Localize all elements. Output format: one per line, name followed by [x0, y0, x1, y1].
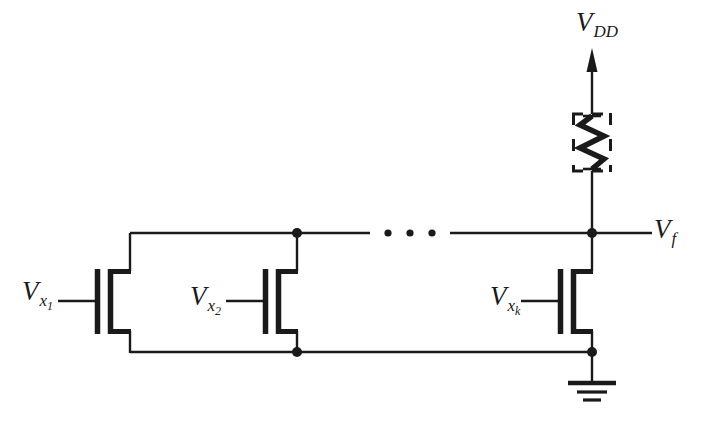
ellipsis-dot-3 — [428, 229, 435, 236]
vx2-label-index: 2 — [215, 304, 221, 318]
vxk-label-base: V — [490, 281, 507, 311]
vdd-supply-line — [587, 48, 598, 114]
vx1-label-index: 1 — [47, 299, 53, 313]
vx1-input-label: Vx1 — [22, 278, 52, 305]
vdd-label-sub: DD — [594, 22, 619, 41]
load-resistor-zigzag-icon — [580, 116, 604, 169]
vdd-label: VDD — [576, 9, 617, 36]
nmos-transistor-2 — [226, 233, 298, 353]
nmos-transistor-k — [521, 233, 593, 353]
junction-top-t2 — [292, 228, 302, 238]
circuit-diagram-canvas: VDD Vf Vx1 Vx2 Vxk — [0, 0, 715, 421]
ground-symbol — [568, 352, 616, 400]
schematic-svg — [0, 0, 715, 421]
vf-label-base: V — [654, 214, 671, 244]
vxk-input-label: Vxk — [490, 283, 519, 310]
vf-output-label: Vf — [654, 216, 675, 243]
ellipsis-dot-2 — [406, 229, 413, 236]
vf-label-sub: f — [672, 229, 677, 248]
vxk-label-index: k — [515, 304, 520, 318]
vx1-label-sub: x1 — [40, 291, 54, 310]
ellipsis-dot-1 — [384, 229, 391, 236]
vx2-label-sub: x2 — [208, 296, 222, 315]
vdd-label-base: V — [576, 7, 593, 37]
continuation-dots — [384, 229, 435, 236]
vxk-label-sub: xk — [508, 296, 521, 315]
vx2-label-base: V — [190, 281, 207, 311]
vx1-label-base: V — [22, 276, 39, 306]
junction-bottom-t2 — [292, 347, 302, 357]
junction-top-tk — [587, 228, 597, 238]
resistor-zigzag-path — [580, 116, 604, 169]
vx2-input-label: Vx2 — [190, 283, 220, 310]
nmos-transistor-1 — [58, 233, 131, 353]
vdd-arrowhead-icon — [587, 48, 598, 72]
